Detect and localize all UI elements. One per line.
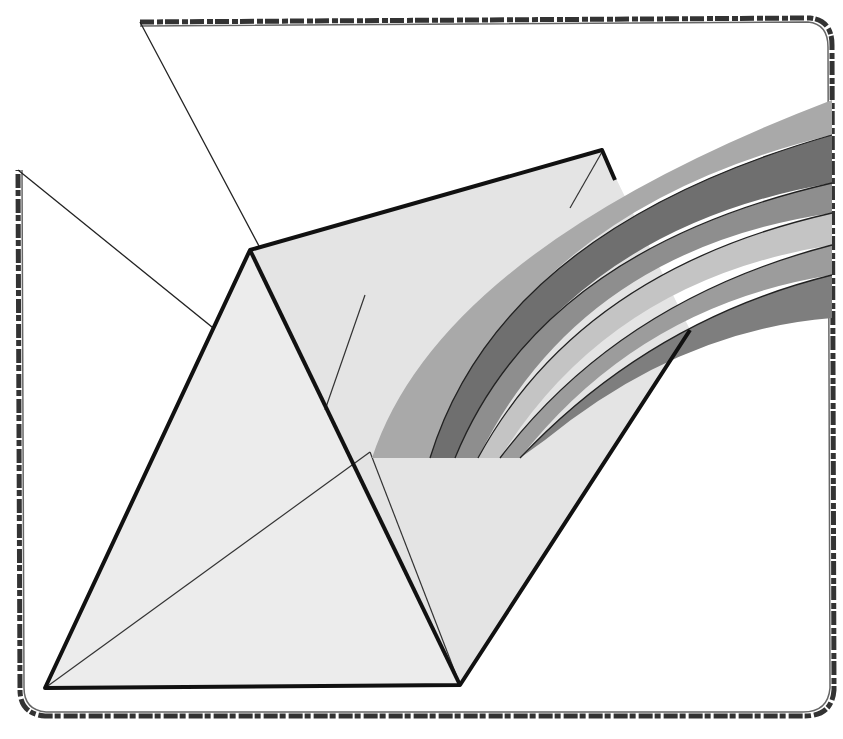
illustration <box>0 0 843 739</box>
envelope-rainbow-drawing <box>0 0 843 739</box>
